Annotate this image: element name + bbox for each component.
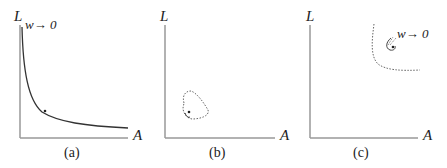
panel-b-trajectory (185, 113, 190, 117)
panel-a-point (44, 110, 47, 113)
panel-a-caption: (a) (64, 145, 80, 161)
panel-a-y-label: L (14, 8, 22, 25)
panel-c-annotation: w→ 0 (397, 26, 428, 42)
panel-c-caption: (c) (353, 145, 369, 161)
panel-c-arrows (388, 37, 396, 45)
diagram-canvas (0, 0, 447, 168)
panel-c-point (392, 46, 395, 49)
panel-b-axes (165, 25, 275, 138)
panel-a-annotation: w→ 0 (25, 17, 56, 33)
panel-c-x-label: A (423, 127, 432, 144)
panel-b-point (188, 111, 191, 114)
panel-b-caption: (b) (209, 145, 225, 161)
panel-a-axes (20, 25, 128, 138)
panel-a-hyperbola-curve (22, 27, 128, 128)
panel-b-y-label: L (160, 8, 168, 25)
panel-c-y-label: L (306, 8, 314, 25)
panel-b-x-label: A (280, 127, 289, 144)
panel-b-limit-cycle (183, 91, 208, 119)
panel-a-x-label: A (133, 127, 142, 144)
